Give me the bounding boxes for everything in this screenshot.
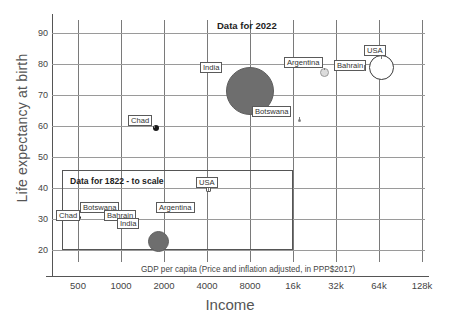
gridline-y-60	[52, 126, 425, 127]
x-tick-128k: 128k	[400, 280, 444, 291]
label-botswana-2022[interactable]: Botswana	[252, 106, 291, 117]
plot-area: Data for 2022 India Chad Botswana Argent…	[52, 20, 425, 262]
leader-chad-2022	[154, 125, 155, 128]
y-tick-80: 80	[26, 59, 48, 69]
label-chad-1822[interactable]: Chad	[56, 210, 80, 221]
chart-title-2022: Data for 2022	[217, 20, 277, 31]
bubble-india-1822[interactable]	[148, 231, 169, 252]
label-argentina-2022[interactable]: Argentina	[284, 57, 323, 68]
x-axis-label: Income	[150, 296, 310, 313]
x-tick-500: 500	[56, 280, 100, 291]
y-tick-70: 70	[26, 90, 48, 100]
gridline-y-90	[52, 33, 425, 34]
label-usa-1822[interactable]: USA	[196, 177, 218, 188]
label-usa-2022[interactable]: USA	[364, 45, 386, 56]
gridline-x-32k	[336, 20, 337, 262]
y-tick-30: 30	[26, 214, 48, 224]
x-tick-2000: 2000	[142, 280, 186, 291]
label-bahrain-2022[interactable]: Bahrain	[334, 60, 366, 71]
gridline-y-50	[52, 157, 425, 158]
y-tick-60: 60	[26, 121, 48, 131]
leader-usa-1822	[208, 188, 209, 191]
label-india-1822[interactable]: India	[117, 218, 139, 229]
y-tick-20: 20	[26, 245, 48, 255]
y-tick-40: 40	[26, 183, 48, 193]
gridline-y-20	[52, 250, 425, 251]
leader-argentina-2022	[324, 68, 325, 70]
x-tick-16k: 16k	[271, 280, 315, 291]
leader-usa-2022	[381, 56, 382, 59]
leader-botswana-2022	[299, 117, 300, 121]
x-tick-8000: 8000	[228, 280, 272, 291]
inset-1822-title: Data for 1822 - to scale	[70, 176, 164, 186]
x-tick-4000: 4000	[185, 280, 229, 291]
label-argentina-1822[interactable]: Argentina	[156, 202, 195, 213]
x-axis-line	[46, 276, 429, 277]
y-tick-90: 90	[26, 28, 48, 38]
y-tick-50: 50	[26, 152, 48, 162]
x-tick-64k: 64k	[357, 280, 401, 291]
scatter-chart: Life expectancy at birth 90 80 70 60 50 …	[0, 0, 456, 320]
x-axis-note: GDP per capita (Price and inflation adju…	[141, 265, 355, 274]
x-tick-1000: 1000	[99, 280, 143, 291]
label-india-2022[interactable]: India	[200, 62, 222, 73]
leader-bahrain-2022	[364, 65, 365, 71]
gridline-x-128k	[422, 20, 423, 262]
x-tick-32k: 32k	[314, 280, 358, 291]
label-chad-2022[interactable]: Chad	[128, 115, 152, 126]
